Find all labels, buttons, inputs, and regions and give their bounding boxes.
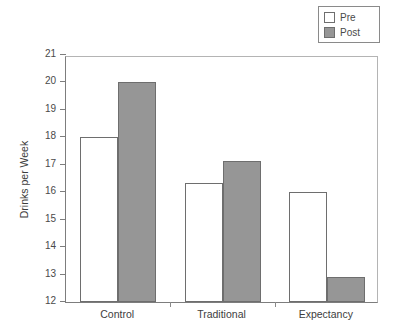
y-axis-tick-label: 19 xyxy=(45,103,56,115)
y-axis-tick: 13 xyxy=(60,274,66,275)
y-axis-tick: 17 xyxy=(60,164,66,165)
y-axis-tick: 18 xyxy=(60,136,66,137)
y-axis-tick: 19 xyxy=(60,109,66,110)
bar-chart-figure: Pre Post Drinks per Week 121314151617181… xyxy=(0,0,396,334)
x-axis-separator-tick xyxy=(170,302,171,307)
bar-expectancy-pre xyxy=(289,192,327,302)
y-axis-tick-label: 16 xyxy=(45,185,56,197)
y-axis-tick-label: 20 xyxy=(45,75,56,87)
legend-label-pre: Pre xyxy=(340,12,356,23)
legend-label-post: Post xyxy=(340,27,360,38)
y-axis-tick-label: 13 xyxy=(45,268,56,280)
y-axis-tick: 14 xyxy=(60,246,66,247)
y-axis-tick-label: 18 xyxy=(45,130,56,142)
y-axis-tick-label: 21 xyxy=(45,48,56,60)
bar-traditional-pre xyxy=(185,183,223,302)
y-axis-tick: 12 xyxy=(60,301,66,302)
legend-swatch-post-icon xyxy=(324,27,335,38)
y-axis-tick: 15 xyxy=(60,219,66,220)
x-axis-label-expectancy: Expectancy xyxy=(274,308,378,321)
x-axis-label-control: Control xyxy=(65,308,169,321)
y-axis-tick-label: 17 xyxy=(45,158,56,170)
legend-item-post: Post xyxy=(324,25,375,40)
y-axis-tick-label: 14 xyxy=(45,240,56,252)
y-axis-tick-label: 12 xyxy=(45,295,56,307)
y-axis-tick-label: 15 xyxy=(45,213,56,225)
y-axis-title: Drinks per Week xyxy=(17,56,31,303)
chart-legend: Pre Post xyxy=(318,6,380,43)
legend-item-pre: Pre xyxy=(324,10,375,25)
bar-traditional-post xyxy=(223,161,261,302)
legend-swatch-pre-icon xyxy=(324,12,335,23)
x-axis-label-traditional: Traditional xyxy=(169,308,273,321)
y-axis-tick: 16 xyxy=(60,191,66,192)
bar-expectancy-post xyxy=(327,277,365,302)
bar-control-pre xyxy=(80,137,118,302)
x-axis-separator-tick xyxy=(275,302,276,307)
y-axis-tick: 20 xyxy=(60,81,66,82)
plot-area: 12131415161718192021 xyxy=(65,56,378,303)
y-axis-tick: 21 xyxy=(60,54,66,55)
bar-control-post xyxy=(118,82,156,302)
